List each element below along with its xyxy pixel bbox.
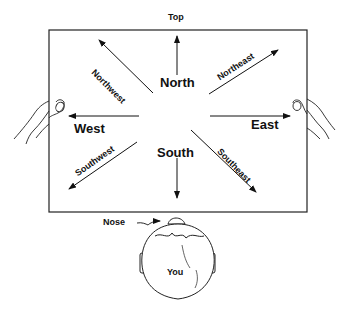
- nose-pointer-arrow: [137, 221, 160, 225]
- north-label: North: [160, 75, 195, 90]
- top-label: Top: [168, 12, 184, 22]
- nose-label: Nose: [103, 217, 125, 227]
- you-label: You: [167, 267, 183, 277]
- head-illustration: [140, 218, 215, 299]
- south-label: South: [157, 145, 194, 160]
- east-label: East: [251, 117, 278, 132]
- west-label: West: [74, 121, 105, 136]
